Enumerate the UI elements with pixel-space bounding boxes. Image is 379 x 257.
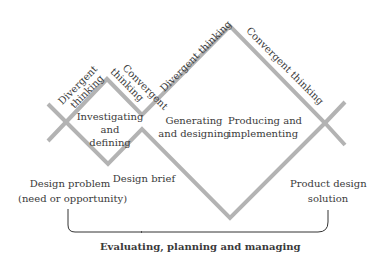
label-line: Investigating — [74, 110, 146, 123]
stage-generating-designing: Generating and designing — [158, 114, 230, 140]
label-line: (need or opportunity) — [18, 192, 122, 205]
milestone-design-brief: Design brief — [112, 172, 176, 185]
label-line: Design problem — [18, 177, 122, 190]
footer-evaluating-planning-managing: Evaluating, planning and managing — [100, 240, 300, 253]
process-bracket — [68, 209, 328, 232]
label-line: implementing — [228, 127, 308, 140]
label-line: Generating — [158, 114, 230, 127]
label-line: solution — [290, 192, 366, 205]
label-line: defining — [74, 136, 146, 149]
label-line: and designing — [158, 127, 230, 140]
label-line: and — [74, 123, 146, 136]
stage-investigating-defining: Investigating and defining — [74, 110, 146, 149]
milestone-product-design-solution: Product design solution — [290, 177, 366, 205]
label-line: Product design — [290, 177, 366, 190]
stage-producing-implementing: Producing and implementing — [228, 114, 308, 140]
milestone-design-problem: Design problem (need or opportunity) — [18, 177, 122, 205]
label-line: Producing and — [228, 114, 308, 127]
